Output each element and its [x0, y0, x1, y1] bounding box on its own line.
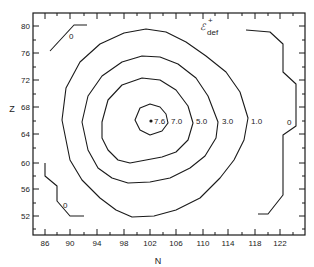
x-axis-ticks	[45, 229, 293, 235]
svg-text:+: +	[208, 16, 213, 25]
label-0-bottomleft: 0	[63, 201, 68, 210]
contour-plot: 80 76 72 68 64 60 56 52 86 90 94 98 102 …	[0, 0, 314, 267]
x-axis-ticks-top	[45, 13, 293, 19]
x-tick-labels: 86 90 94 98 102 106 110 114 118 122	[41, 239, 288, 248]
svg-text:98: 98	[120, 239, 129, 248]
svg-text:94: 94	[93, 239, 102, 248]
label-7.0: 7.0	[171, 117, 183, 126]
svg-text:56: 56	[21, 185, 30, 194]
x-axis-label: N	[155, 256, 162, 266]
quantity-label: ℰ + def	[200, 16, 219, 37]
svg-text:80: 80	[21, 22, 30, 31]
svg-text:ℰ: ℰ	[200, 22, 207, 32]
maximum-point	[149, 119, 152, 122]
svg-text:86: 86	[41, 239, 50, 248]
y-tick-labels: 80 76 72 68 64 60 56 52	[21, 22, 30, 221]
label-1.0: 1.0	[251, 117, 263, 126]
svg-text:68: 68	[21, 103, 30, 112]
label-0-topleft: 0	[69, 32, 74, 41]
svg-text:102: 102	[143, 239, 157, 248]
svg-text:52: 52	[21, 212, 30, 221]
svg-text:118: 118	[249, 239, 262, 248]
svg-text:114: 114	[222, 239, 235, 248]
label-5.0: 5.0	[196, 117, 208, 126]
label-0-right: 0	[287, 118, 292, 127]
plot-frame	[33, 13, 305, 235]
svg-text:122: 122	[273, 239, 287, 248]
svg-text:72: 72	[21, 76, 30, 85]
label-max: 7.6	[154, 117, 166, 126]
svg-text:106: 106	[169, 239, 183, 248]
svg-text:60: 60	[21, 159, 30, 168]
y-axis-ticks-right	[299, 26, 305, 229]
y-axis-ticks	[33, 26, 39, 229]
label-3.0: 3.0	[222, 117, 234, 126]
y-axis-label: Z	[9, 104, 15, 114]
svg-text:64: 64	[21, 130, 30, 139]
svg-text:def: def	[207, 28, 219, 37]
svg-text:76: 76	[21, 49, 30, 58]
svg-text:110: 110	[197, 239, 210, 248]
svg-text:90: 90	[66, 239, 75, 248]
